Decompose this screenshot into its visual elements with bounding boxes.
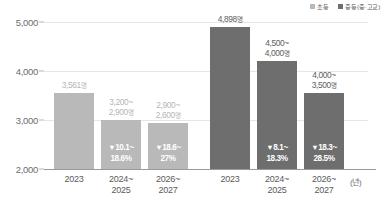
x-axis-tick-label: 2026~2027: [138, 174, 198, 196]
bar-column[interactable]: 4,898명: [210, 27, 250, 169]
legend-label-secondary: 중등(중·고교): [345, 2, 380, 11]
bar-change-label: ▼8.1~18.3%: [266, 143, 288, 169]
bar-change-label: ▼18.6~27%: [155, 143, 181, 169]
y-axis-tick-label: 5,000: [16, 17, 38, 28]
plot-area: 5,0004,0003,0002,000 3,561명▼10.1~18.6%3,…: [44, 22, 376, 170]
bar-column[interactable]: ▼10.1~18.6%3,200~2,900명: [101, 120, 141, 169]
bar-chart: 초등 중등(중·고교) 5,0004,0003,0002,000 3,561명▼…: [0, 0, 384, 212]
bar[interactable]: 3,561명: [54, 93, 94, 169]
bar[interactable]: ▼8.1~18.3%4,500~4,000명: [257, 61, 297, 169]
bar-value-label: 2,900~2,600명: [156, 100, 181, 121]
legend-label-elementary: 초등: [317, 2, 329, 11]
bar-column[interactable]: ▼8.1~18.3%4,500~4,000명: [257, 61, 297, 169]
bar-change-label: ▼18.3~28.5%: [311, 143, 337, 169]
bar[interactable]: 4,898명: [210, 27, 250, 169]
bar-series-container: 3,561명▼10.1~18.6%3,200~2,900명▼18.6~27%2,…: [44, 22, 376, 169]
chart-legend: 초등 중등(중·고교): [310, 2, 380, 11]
x-axis-unit-label: (년): [350, 176, 361, 187]
x-axis-labels: 20232024~20252026~202720232024~20252026~…: [44, 174, 376, 204]
y-axis-tick-label: 4,000: [16, 66, 38, 77]
square-swatch-icon: [338, 4, 343, 9]
legend-item-secondary: 중등(중·고교): [338, 2, 380, 11]
bar-change-label: ▼10.1~18.6%: [108, 143, 134, 169]
bar-value-label: 3,561명: [62, 80, 87, 91]
bar[interactable]: ▼18.6~27%2,900~2,600명: [148, 123, 188, 169]
bar-value-label: 4,898명: [218, 14, 243, 25]
square-swatch-icon: [310, 4, 315, 9]
y-axis-tick-label: 3,000: [16, 115, 38, 126]
bar-value-label: 4,000~3,500명: [312, 70, 337, 91]
bar-value-label: 4,500~4,000명: [265, 38, 290, 59]
bar[interactable]: ▼18.3~28.5%4,000~3,500명: [304, 93, 344, 169]
x-axis-tick-label: 2026~2027: [294, 174, 354, 196]
bar-column[interactable]: 3,561명: [54, 93, 94, 169]
bar[interactable]: ▼10.1~18.6%3,200~2,900명: [101, 120, 141, 169]
bar-value-label: 3,200~2,900명: [109, 97, 134, 118]
x-axis-line: [44, 169, 376, 170]
bar-column[interactable]: ▼18.6~27%2,900~2,600명: [148, 123, 188, 169]
y-axis-tick-label: 2,000: [16, 164, 38, 175]
legend-item-elementary: 초등: [310, 2, 329, 11]
bar-column[interactable]: ▼18.3~28.5%4,000~3,500명: [304, 93, 344, 169]
